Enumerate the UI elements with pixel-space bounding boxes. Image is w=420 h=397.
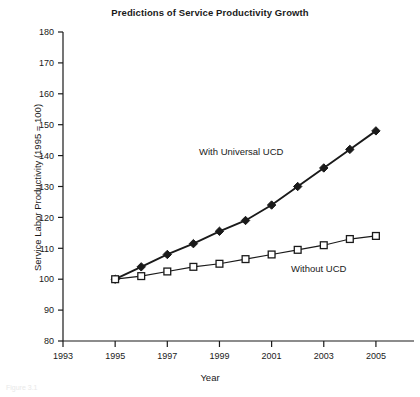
svg-text:2001: 2001: [262, 351, 282, 361]
data-point-marker: [112, 276, 119, 283]
y-axis-ticks: 8090100110120130140150160170180: [39, 27, 63, 346]
svg-text:110: 110: [40, 244, 54, 254]
data-point-marker: [137, 263, 145, 271]
data-point-marker: [189, 239, 197, 247]
chart-plot-area: 8090100110120130140150160170180 19931995…: [0, 0, 420, 397]
data-point-marker: [163, 250, 171, 258]
data-point-marker: [215, 227, 223, 235]
data-point-marker: [138, 273, 145, 280]
data-point-marker: [190, 263, 197, 270]
data-point-marker: [164, 268, 171, 275]
svg-text:1995: 1995: [105, 351, 125, 361]
svg-text:120: 120: [39, 213, 54, 223]
series-layer: [111, 127, 380, 284]
svg-text:90: 90: [44, 305, 54, 315]
svg-text:160: 160: [39, 89, 54, 99]
axis-lines: [63, 32, 414, 341]
data-point-marker: [268, 251, 275, 258]
svg-text:2005: 2005: [366, 351, 386, 361]
svg-text:1997: 1997: [157, 351, 177, 361]
svg-text:130: 130: [39, 182, 54, 192]
svg-text:1993: 1993: [53, 351, 73, 361]
data-point-marker: [346, 236, 353, 243]
svg-text:140: 140: [39, 151, 54, 161]
svg-text:150: 150: [39, 120, 54, 130]
svg-text:100: 100: [39, 274, 54, 284]
svg-text:80: 80: [44, 336, 54, 346]
x-axis-ticks: 1993199519971999200120032005: [53, 341, 386, 361]
svg-text:1999: 1999: [209, 351, 229, 361]
data-point-marker: [373, 233, 380, 240]
chart-container: Predictions of Service Productivity Grow…: [0, 0, 420, 397]
svg-text:180: 180: [39, 27, 54, 37]
data-point-marker: [294, 246, 301, 253]
data-point-marker: [241, 216, 249, 224]
svg-text:170: 170: [39, 58, 54, 68]
data-point-marker: [242, 256, 249, 263]
data-point-marker: [216, 260, 223, 267]
data-point-marker: [320, 242, 327, 249]
svg-text:2003: 2003: [314, 351, 334, 361]
series-without-ucd: [112, 233, 380, 283]
